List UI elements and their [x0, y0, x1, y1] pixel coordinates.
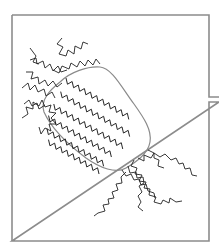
capsule-outline	[43, 67, 150, 171]
loose-chains-bottom-right	[94, 150, 197, 216]
polymer-bundle-diagram	[0, 0, 219, 252]
frame	[12, 15, 219, 241]
loose-chains-top-left	[22, 38, 100, 134]
